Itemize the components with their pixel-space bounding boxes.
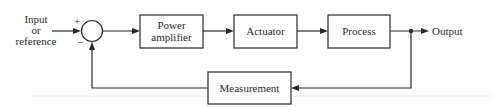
arrow-actuator-to-process: [297, 28, 328, 34]
arrow-power-amplifier-to-actuator: [203, 28, 234, 34]
measurement-label: Measurement: [220, 82, 280, 94]
minus-sign: −: [77, 36, 83, 48]
power-amplifier-block: Power amplifier: [140, 15, 203, 48]
plus-sign: +: [74, 16, 80, 27]
output-label: Output: [432, 25, 463, 37]
arrow-junction-to-power-amplifier: [103, 28, 141, 34]
actuator-block: Actuator: [234, 15, 297, 48]
input-arrow: [52, 28, 81, 34]
input-label-line-3: reference: [16, 35, 57, 47]
process-label: Process: [342, 25, 376, 37]
summing-junction: + −: [74, 16, 102, 48]
power-amplifier-label-2: amplifier: [151, 31, 192, 43]
actuator-label: Actuator: [246, 25, 285, 37]
power-amplifier-label-1: Power: [157, 19, 185, 31]
process-block: Process: [328, 15, 390, 48]
measurement-block: Measurement: [208, 72, 291, 104]
block-diagram: Input or reference + − Power amplifier: [0, 0, 493, 107]
input-label: Input or reference: [16, 13, 57, 47]
